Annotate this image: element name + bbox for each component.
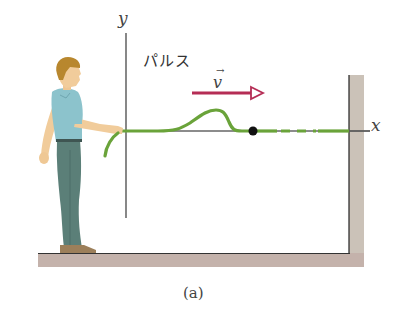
rope-tail <box>105 133 118 156</box>
wall <box>349 75 364 253</box>
person-shoes <box>60 245 96 253</box>
marker-dot <box>249 127 258 136</box>
pulse-on-rope-figure: y x パルス → v (a) <box>0 0 411 318</box>
velocity-arrow <box>192 87 263 99</box>
figure-canvas <box>0 0 411 318</box>
figure-caption: (a) <box>183 284 204 302</box>
floor <box>38 253 364 267</box>
rope-with-pulse <box>122 110 253 131</box>
velocity-label: v <box>213 73 222 92</box>
y-axis-label: y <box>118 8 128 28</box>
pulse-label: パルス <box>143 49 191 70</box>
x-axis-label: x <box>371 115 381 135</box>
person <box>39 57 123 253</box>
person-pants <box>57 140 82 248</box>
